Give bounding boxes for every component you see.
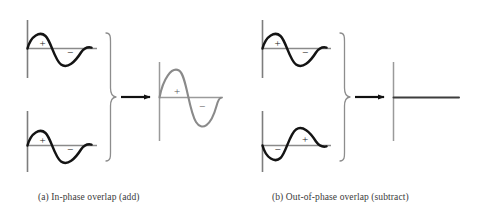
panel-a-caption: (a) In-phase overlap (add) [38, 192, 140, 202]
panel-a-bottom-wave-curve [28, 131, 92, 163]
panel-b-bottom-wave-curve [263, 128, 327, 160]
panel-a-brace [106, 33, 116, 161]
panel-b-brace [340, 33, 350, 161]
panel-b-bottom-minus-label: − [274, 143, 280, 155]
panel-b-top-wave-group: + − [263, 20, 332, 78]
panel-a-result-minus-label: − [199, 100, 205, 112]
panel-b-bottom-wave-group: − + [263, 111, 332, 172]
panel-a-top-minus-label: − [67, 46, 73, 58]
panel-a-result-plus-label: + [174, 85, 180, 97]
panel-b-caption: (b) Out-of-phase overlap (subtract) [272, 192, 409, 202]
panel-a-top-wave-curve [28, 34, 92, 66]
wave-overlap-figure: + − + − + − [0, 0, 479, 215]
panel-a-top-plus-label: + [39, 37, 45, 49]
panel-a-bottom-minus-label: − [67, 143, 73, 155]
panel-a-result-group: + − [160, 62, 224, 141]
panel-a-top-wave-group: + − [28, 20, 98, 78]
panel-a-bottom-plus-label: + [39, 134, 45, 146]
panel-b-top-wave-curve [263, 34, 327, 66]
panel-a-bottom-wave-group: + − [28, 111, 98, 172]
panel-b-bottom-plus-label: + [302, 133, 308, 145]
panel-b-top-plus-label: + [274, 37, 280, 49]
panel-b: + − − + [263, 20, 460, 172]
panel-a: + − + − + − [28, 20, 224, 172]
panel-b-result-group [394, 62, 460, 141]
panel-b-top-minus-label: − [302, 46, 308, 58]
figure-canvas: + − + − + − [0, 0, 479, 215]
